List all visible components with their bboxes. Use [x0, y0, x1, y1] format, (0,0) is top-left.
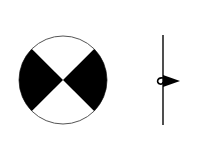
loop [158, 78, 163, 84]
arrow-right-icon [163, 75, 180, 87]
circle-sector-symbol [19, 36, 107, 124]
line-loop-arrow-symbol [158, 35, 180, 125]
